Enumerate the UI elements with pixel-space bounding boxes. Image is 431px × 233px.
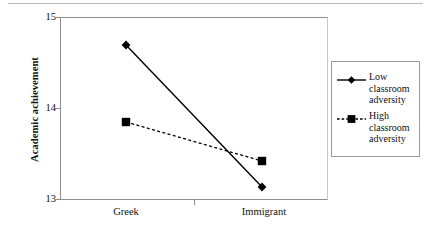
series-high-line	[126, 122, 262, 161]
legend-item-high-classroom-adversity: High classroom adversity	[336, 110, 418, 145]
x-tick-label-greek: Greek	[96, 206, 156, 217]
legend-item-low-classroom-adversity: Low classroom adversity	[336, 71, 418, 106]
square-marker-greek	[122, 118, 130, 126]
legend: Low classroom adversity High classroom a…	[331, 61, 420, 157]
y-tick-label-15: 15	[36, 12, 56, 23]
series-low-line	[126, 45, 262, 187]
plot-series-layer	[60, 17, 328, 200]
series-high-classroom-adversity	[122, 118, 266, 165]
x-tick-label-immigrant: Immigrant	[228, 206, 300, 217]
page-top-rule	[8, 3, 423, 4]
square-marker-immigrant	[258, 157, 266, 165]
y-axis-tick-labels: 15 14 13	[36, 0, 56, 233]
legend-label-low: Low classroom adversity	[369, 71, 418, 106]
figure-root: Academic achievement 15 14 13 Greek Immi…	[0, 0, 431, 233]
x-axis-center-tick	[194, 200, 195, 205]
series-low-classroom-adversity	[122, 41, 267, 192]
y-tick-label-13: 13	[36, 194, 56, 205]
legend-label-high: High classroom adversity	[369, 110, 418, 145]
y-tick-label-14: 14	[36, 103, 56, 114]
legend-sample-solid-diamond-icon	[336, 72, 367, 84]
legend-sample-dashed-square-icon	[336, 111, 367, 123]
